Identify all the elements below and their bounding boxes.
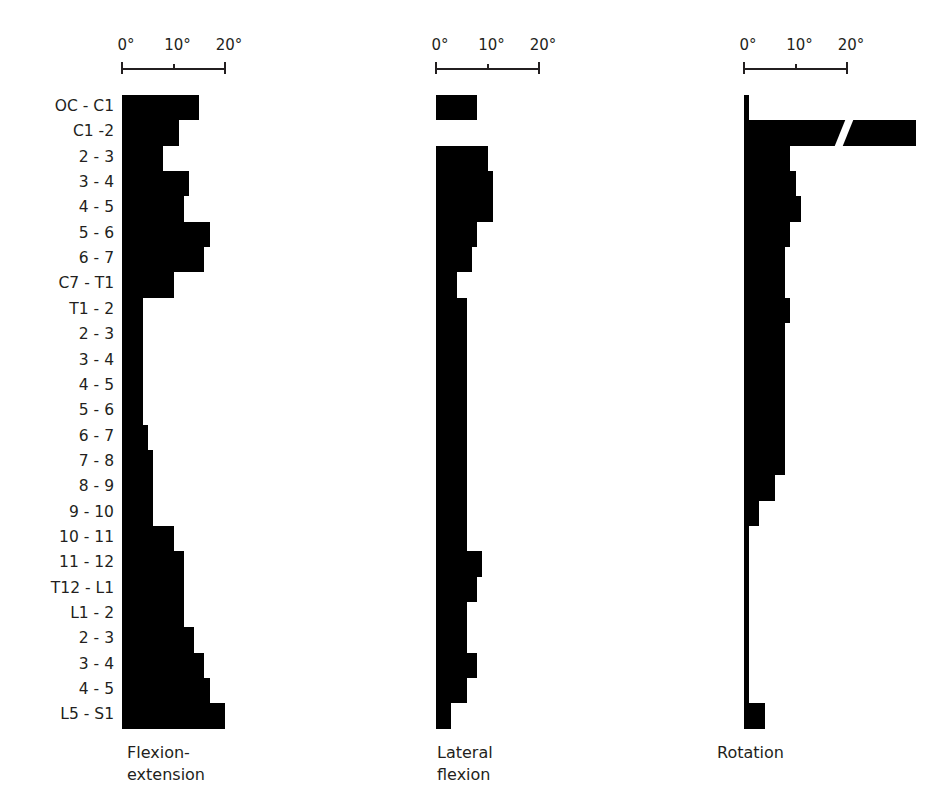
bar — [436, 247, 472, 272]
segment-label: C1 -2 — [73, 119, 114, 144]
bar — [122, 450, 153, 475]
segment-label: OC - C1 — [55, 94, 114, 119]
bar — [744, 247, 785, 272]
panel-title: Lateral flexion — [437, 742, 493, 786]
bar — [122, 374, 143, 399]
segment-label: L5 - S1 — [60, 702, 114, 727]
bar — [744, 627, 749, 652]
segment-label: L1 - 2 — [70, 601, 114, 626]
bar — [122, 627, 194, 652]
bar — [744, 196, 801, 221]
bar — [122, 425, 148, 450]
bar — [122, 349, 143, 374]
segment-label: 2 - 3 — [79, 626, 114, 651]
segment-label: 2 - 3 — [79, 322, 114, 347]
segment-label: 7 - 8 — [79, 449, 114, 474]
bar — [436, 146, 488, 171]
tick-label: 10° — [786, 36, 813, 54]
segment-label: 3 - 4 — [79, 652, 114, 677]
tick-label: 20° — [838, 36, 865, 54]
bar — [436, 196, 493, 221]
bar — [744, 323, 785, 348]
bar — [744, 95, 749, 120]
bar — [744, 374, 785, 399]
bar — [122, 577, 184, 602]
bar — [744, 120, 916, 145]
bar — [436, 95, 477, 120]
axis-tick — [487, 64, 489, 70]
bar — [122, 399, 143, 424]
bar — [744, 349, 785, 374]
segment-label: 6 - 7 — [79, 424, 114, 449]
bar — [436, 399, 467, 424]
bar — [122, 703, 225, 728]
bar — [436, 349, 467, 374]
segment-label: 5 - 6 — [79, 398, 114, 423]
bar — [744, 475, 775, 500]
bar — [122, 298, 143, 323]
tick-label: 10° — [164, 36, 191, 54]
bar — [436, 602, 467, 627]
bar — [744, 146, 790, 171]
bar — [436, 425, 467, 450]
tick-label: 20° — [216, 36, 243, 54]
bar — [436, 222, 477, 247]
bar — [122, 653, 204, 678]
bar — [744, 602, 749, 627]
panel-title: Rotation — [717, 742, 784, 764]
bar — [122, 146, 163, 171]
axis-tick — [224, 62, 226, 74]
bar — [122, 323, 143, 348]
segment-label: T1 - 2 — [69, 297, 114, 322]
segment-label: 4 - 5 — [79, 677, 114, 702]
bar — [436, 501, 467, 526]
segment-label: T12 - L1 — [51, 576, 114, 601]
bar — [436, 323, 467, 348]
segment-label: 9 - 10 — [69, 500, 114, 525]
bar — [122, 678, 210, 703]
axis-tick — [538, 62, 540, 74]
segment-label: 3 - 4 — [79, 348, 114, 373]
bar — [744, 425, 785, 450]
bar — [122, 171, 189, 196]
bar — [122, 120, 179, 145]
bar — [436, 703, 451, 728]
bar — [436, 678, 467, 703]
bar — [122, 272, 174, 297]
segment-label: 3 - 4 — [79, 170, 114, 195]
bar — [744, 298, 790, 323]
tick-label: 0° — [431, 36, 448, 54]
bar — [436, 526, 467, 551]
bar — [122, 551, 184, 576]
bar — [436, 551, 482, 576]
segment-label: C7 - T1 — [59, 271, 114, 296]
bar — [436, 298, 467, 323]
bar — [744, 678, 749, 703]
bar — [436, 272, 457, 297]
segment-label: 11 - 12 — [59, 550, 114, 575]
bar — [744, 501, 759, 526]
bar — [122, 501, 153, 526]
bar — [744, 399, 785, 424]
bar — [436, 171, 493, 196]
segment-label: 4 - 5 — [79, 373, 114, 398]
bar — [744, 450, 785, 475]
axis-tick — [121, 62, 123, 74]
tick-label: 10° — [478, 36, 505, 54]
segment-label: 2 - 3 — [79, 145, 114, 170]
bar — [436, 577, 477, 602]
axis-tick — [846, 62, 848, 74]
segment-label: 6 - 7 — [79, 246, 114, 271]
bar — [122, 247, 204, 272]
bar — [122, 95, 199, 120]
bar — [744, 577, 749, 602]
bar — [436, 653, 477, 678]
segment-label: 8 - 9 — [79, 474, 114, 499]
axis-tick — [743, 62, 745, 74]
bar — [744, 171, 796, 196]
bar — [744, 272, 785, 297]
tick-label: 0° — [117, 36, 134, 54]
tick-label: 0° — [739, 36, 756, 54]
bar — [122, 526, 174, 551]
segment-label: 4 - 5 — [79, 195, 114, 220]
